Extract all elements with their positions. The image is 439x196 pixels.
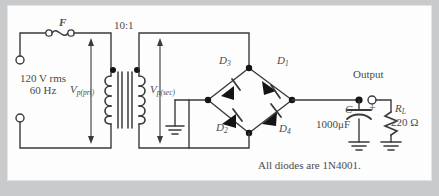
ground-symbol-load [381,142,401,150]
fuse-terminal-left [46,30,52,36]
diode-d4-label: D4 [279,123,291,135]
wire-bridge-top-right [249,68,292,100]
wire-fuse-to-primary-top [74,33,111,70]
ground-symbol-capacitor [349,142,369,150]
diode-d4-symbol: D [279,122,287,134]
diode-d3-subscript: 3 [227,59,231,68]
fuse-element [52,31,68,36]
diode-d1-symbol: D [277,54,285,66]
secondary-voltage-label: Vp(sec) [150,84,175,96]
fuse-terminal-right [68,30,74,36]
vsec-arrow-head-down [157,136,163,144]
diode-d2-label: D2 [216,122,228,134]
wire-source-to-fuse [20,33,46,56]
circuit-schematic [0,0,439,196]
diode-d2-subscript: 2 [224,126,228,135]
load-resistor-label: RL [395,103,406,115]
diode-d2-symbol: D [216,121,224,133]
diode-d1-label: D1 [277,55,289,67]
source-label: 120 V rms 60 Hz [12,73,74,96]
capacitor-value-label: 1000μF [316,119,350,131]
fuse-label: F [59,17,66,29]
bridge-node-left [205,97,211,103]
wire-secondary-bottom-to-bridge [139,100,208,148]
secondary-voltage-symbol: V [150,83,157,95]
diode-d3-label: D3 [219,55,231,67]
primary-voltage-label: Vp(pri) [70,84,94,96]
source-frequency: 60 Hz [30,84,57,96]
wire-primary-bottom-return [20,122,111,148]
source-voltage: 120 V rms [20,72,66,84]
capacitor-label: C [345,104,352,116]
source-terminal-bottom [16,114,24,122]
primary-voltage-symbol: V [70,83,77,95]
secondary-voltage-subscript: p(sec) [157,88,175,97]
ground-symbol-secondary [166,126,184,134]
wire-secondary-top-to-bridge [139,33,249,70]
turns-ratio-label: 10:1 [114,20,134,32]
diode-d3-symbol: D [219,54,227,66]
transformer-primary-coil [105,76,111,124]
primary-voltage-subscript: p(pri) [77,88,94,97]
figure-root: F 10:1 120 V rms 60 Hz Vp(pri) Vp(sec) D… [0,0,439,196]
capacitor-polarity-label: + [369,102,376,115]
load-resistor-value-label: 220 Ω [391,117,418,129]
transformer-core [118,72,132,128]
wire-output-to-load [376,100,391,112]
vsec-arrow-head-up [157,38,163,46]
diode-d1-subscript: 1 [285,59,289,68]
bridge-node-top [246,65,252,71]
wire-bridge-left-bottom [208,100,249,133]
wire-bridge-bottom-return [189,133,249,148]
transformer-secondary-coil [139,76,145,124]
output-label: Output [353,69,384,81]
diode-d4-subscript: 4 [287,127,291,136]
source-terminal-top [16,56,24,64]
vpri-arrow-head-down [88,136,94,144]
load-resistor-symbol: R [395,102,402,114]
load-resistor-subscript: L [402,107,406,116]
vpri-arrow-head-up [88,38,94,46]
figure-caption: All diodes are 1N4001. [258,160,361,172]
transformer-primary-dot [110,67,116,73]
